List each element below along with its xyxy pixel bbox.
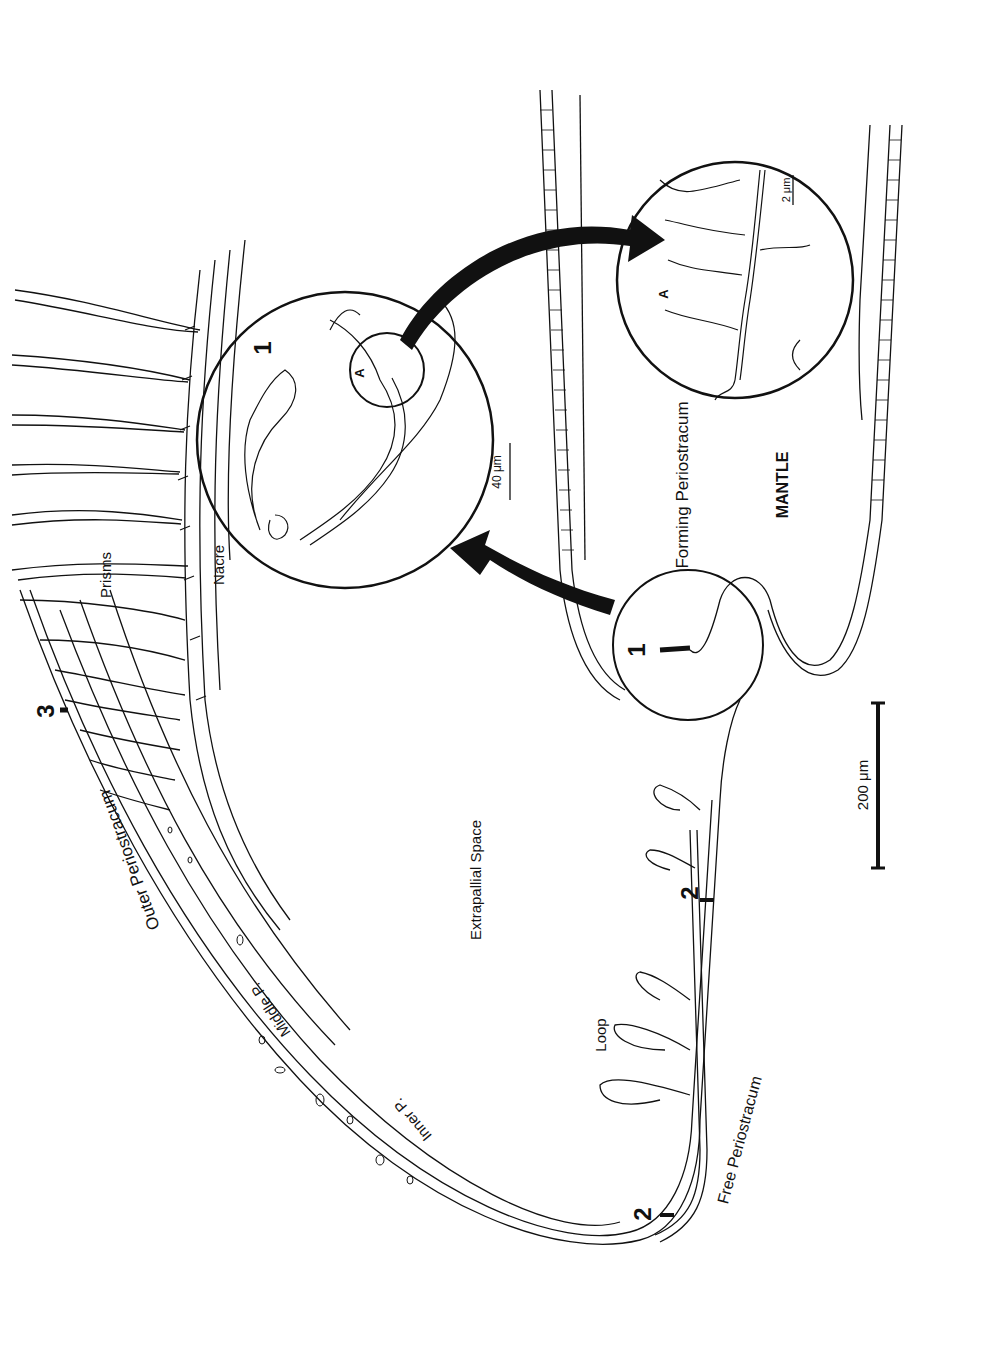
marker-1-small-circle: 1 bbox=[623, 643, 651, 656]
marker-a-inset: A bbox=[352, 368, 367, 377]
marker-a-detail: A bbox=[656, 289, 671, 298]
marker-3: 3 bbox=[32, 704, 60, 717]
inset-1-folds bbox=[245, 300, 455, 545]
label-mantle: MANTLE bbox=[774, 452, 792, 519]
inset-circle-a bbox=[617, 162, 853, 398]
marker-1-large-inset: 1 bbox=[249, 341, 277, 354]
label-prisms: Prisms bbox=[97, 552, 114, 598]
prism-layer bbox=[12, 290, 200, 810]
periostracum-loops bbox=[600, 785, 707, 1242]
periostracum-diagram bbox=[0, 0, 997, 1364]
label-loop: Loop bbox=[592, 1018, 609, 1051]
inset-circle-1 bbox=[197, 292, 493, 588]
scale-label-40um: 40 μm bbox=[490, 455, 504, 489]
label-nacre: Nacre bbox=[210, 545, 227, 585]
inset-a-membrane bbox=[660, 170, 810, 400]
label-extrapallial-space: Extrapallial Space bbox=[467, 820, 484, 940]
marker-2-upper: 2 bbox=[676, 886, 704, 899]
scale-label-2um: 2 μm bbox=[780, 178, 792, 203]
shell-layers bbox=[20, 590, 740, 1244]
periostracum-vesicles bbox=[168, 827, 413, 1184]
marker-2-lower: 2 bbox=[629, 1207, 657, 1220]
marker-1-arrow bbox=[660, 648, 690, 650]
label-forming-periostracum: Forming Periostracum bbox=[673, 401, 693, 568]
scale-bar-200 bbox=[871, 703, 885, 868]
scale-label-200um: 200 μm bbox=[854, 760, 871, 810]
